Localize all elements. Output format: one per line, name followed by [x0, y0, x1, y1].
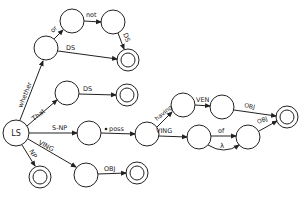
final-node-f3 [276, 106, 298, 128]
node-n4 [55, 81, 79, 105]
label-or: or [49, 24, 60, 35]
node-n7 [171, 93, 195, 117]
edge-poss [101, 133, 135, 134]
label-ds-mid: DS [66, 44, 75, 52]
label-ving-mid: VING [156, 127, 172, 135]
edge-ds-n1-f1 [58, 51, 117, 59]
label-not: not [86, 11, 97, 19]
edge-ving-mid [159, 136, 187, 137]
node-n1 [34, 36, 58, 60]
final-node-f1 [117, 49, 139, 71]
node-n5 [77, 121, 101, 145]
edge-ven [195, 105, 210, 106]
edge-ds-that [79, 94, 116, 95]
label-LS: LS [11, 129, 21, 138]
node-n10 [236, 125, 260, 149]
label-that: That [30, 107, 48, 123]
label-obj-lower: OBJ [256, 114, 269, 125]
edge-not [84, 21, 101, 22]
label-obj-upper: OBJ [244, 101, 256, 111]
label-of: of [218, 127, 225, 135]
poss-dot [105, 128, 108, 131]
edge-obj-bottom [98, 173, 126, 174]
label-np: NP [27, 148, 38, 160]
label-ving-low: VING [37, 139, 55, 154]
label-ds-top: DS [121, 32, 132, 43]
final-node-f4 [29, 166, 51, 188]
node-n11 [74, 163, 98, 187]
node-n2 [60, 9, 84, 33]
label-snp: S-NP [52, 124, 67, 132]
label-ven: VEN [196, 96, 210, 104]
edge-obj-upper [234, 110, 276, 116]
final-node-f2 [116, 84, 138, 106]
node-n3 [101, 10, 125, 34]
node-n9 [187, 125, 211, 149]
atn-diagram: LS whether or not DS DS That DS S-NP pos… [0, 0, 304, 204]
label-poss: poss [109, 125, 124, 133]
node-n8 [210, 95, 234, 119]
label-obj-bottom: OBJ [104, 165, 116, 173]
final-node-f5 [126, 162, 148, 184]
label-lambda: λ [220, 142, 224, 150]
label-ds-that: DS [83, 85, 92, 93]
label-whether: whether [16, 81, 34, 109]
